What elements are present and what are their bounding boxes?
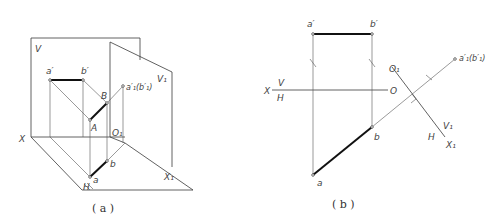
label-x: X — [18, 134, 26, 144]
label-x1: X₁ — [163, 172, 174, 182]
label-h2: H — [428, 132, 435, 142]
label-a-prime: a′ — [307, 19, 315, 29]
label-h: H — [277, 93, 284, 103]
label-v1: V₁ — [443, 121, 453, 131]
label-a: a — [93, 175, 99, 185]
label-v: V — [278, 78, 285, 88]
B-to-a1 — [107, 86, 123, 103]
label-x: X — [263, 86, 271, 96]
label-x1: X₁ — [445, 140, 456, 150]
label-a1-b1: a′₁(b′₁) — [126, 83, 152, 92]
x1-axis-b — [392, 67, 445, 137]
figure-b: X V H O O₁ V₁ H X₁ a′ b′ a′₁(b′₁) a b ( … — [263, 19, 485, 211]
projector-b-to-a1 — [372, 59, 455, 127]
point-a — [89, 176, 92, 179]
segment-AB — [90, 103, 107, 120]
label-o: O — [390, 86, 397, 96]
label-A: A — [90, 123, 97, 133]
label-a-prime: a′ — [46, 66, 54, 76]
caption-b: ( b ) — [332, 198, 355, 211]
label-o1: O₁ — [112, 128, 123, 138]
point-b — [371, 126, 374, 129]
projection-diagrams: V V₁ X H X₁ O₁ a′ b′ a′₁(b′₁) A B a b ( … — [0, 0, 500, 224]
v1-plane — [110, 42, 172, 167]
label-b-prime: b′ — [370, 19, 378, 29]
label-a: a — [317, 178, 323, 188]
label-h: H — [83, 182, 90, 192]
label-v: V — [35, 44, 42, 54]
a-prime-to-A — [50, 80, 90, 120]
point-a1 — [454, 58, 457, 61]
point-b-prime — [82, 79, 85, 82]
label-b: b — [374, 132, 380, 142]
point-b-prime — [371, 33, 374, 36]
label-a1-b1: a′₁(b′₁) — [459, 54, 485, 63]
segment-ab — [313, 127, 372, 175]
point-b — [106, 160, 109, 163]
label-b-prime: b′ — [81, 66, 89, 76]
point-a-prime — [312, 33, 315, 36]
label-B: B — [101, 91, 107, 101]
label-b: b — [110, 159, 116, 169]
point-a — [312, 174, 315, 177]
label-v1: V₁ — [157, 74, 167, 84]
point-a1 — [122, 85, 125, 88]
point-A — [89, 119, 92, 122]
tick-a1 — [426, 75, 432, 80]
label-o1: O₁ — [389, 64, 400, 74]
figure-a: V V₁ X H X₁ O₁ a′ b′ a′₁(b′₁) A B a b ( … — [18, 38, 193, 215]
point-B — [106, 102, 109, 105]
caption-a: ( a ) — [92, 202, 114, 215]
point-a-prime — [49, 79, 52, 82]
h-inner-line — [50, 137, 90, 177]
